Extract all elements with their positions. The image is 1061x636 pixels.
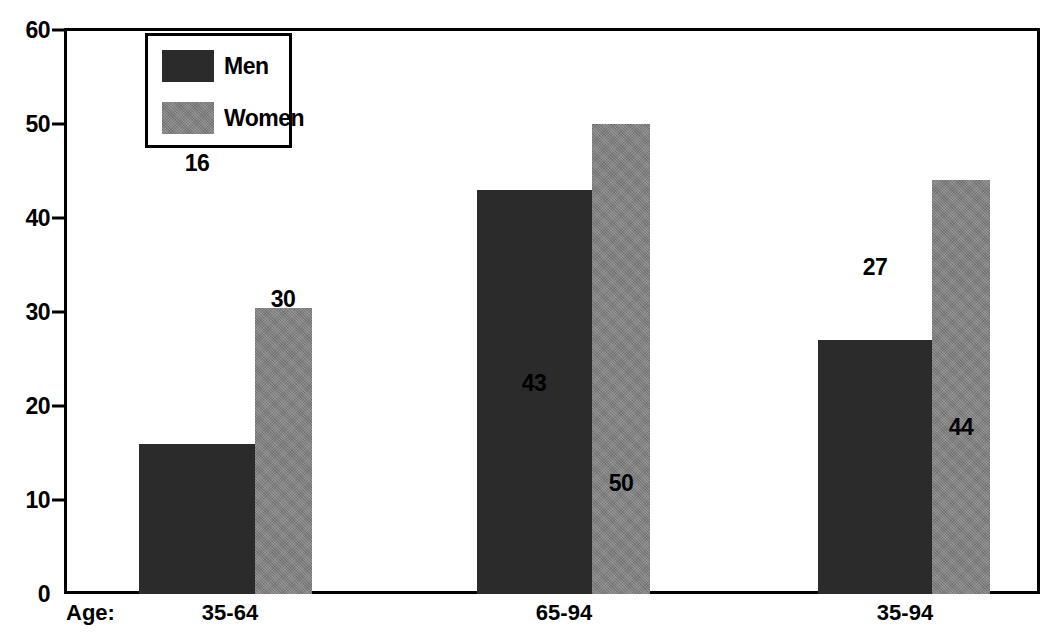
y-tick-label-30: 30 bbox=[25, 301, 50, 324]
value-label-men-35-64: 16 bbox=[185, 152, 210, 175]
x-tick-label-65-94: 65-94 bbox=[536, 602, 592, 624]
bar-men-35-94 bbox=[818, 340, 932, 594]
legend-label-women: Women bbox=[224, 107, 304, 130]
y-tick-label-60: 60 bbox=[25, 19, 50, 42]
bar-women-35-94 bbox=[932, 180, 990, 594]
legend-swatch-men-icon bbox=[162, 50, 214, 82]
bar-chart: 60 50 40 30 20 10 0 16 30 43 50 27 44 bbox=[0, 0, 1061, 636]
y-tick-label-10: 10 bbox=[25, 489, 50, 512]
legend-item-men: Men bbox=[162, 50, 269, 82]
bar-women-35-64 bbox=[255, 308, 312, 594]
x-axis-title: Age: bbox=[66, 602, 115, 624]
value-label-women-65-94: 50 bbox=[609, 472, 634, 495]
value-label-women-35-94: 44 bbox=[949, 416, 974, 439]
x-axis: Age: 35-64 65-94 35-94 bbox=[0, 594, 1061, 636]
value-label-men-65-94: 43 bbox=[522, 372, 547, 395]
y-tick-label-50: 50 bbox=[25, 113, 50, 136]
y-tick-label-40: 40 bbox=[25, 207, 50, 230]
bar-men-35-64 bbox=[139, 444, 255, 594]
y-tick-label-20: 20 bbox=[25, 395, 50, 418]
x-tick-label-35-64: 35-64 bbox=[202, 602, 258, 624]
legend: Men Women bbox=[145, 33, 292, 148]
y-axis: 60 50 40 30 20 10 0 bbox=[0, 0, 64, 636]
value-label-women-35-64: 30 bbox=[271, 288, 296, 311]
legend-item-women: Women bbox=[162, 102, 304, 134]
bar-women-65-94 bbox=[592, 124, 650, 594]
legend-label-men: Men bbox=[224, 55, 269, 78]
value-label-men-35-94: 27 bbox=[863, 256, 888, 279]
legend-swatch-women-icon bbox=[162, 102, 214, 134]
x-tick-label-35-94: 35-94 bbox=[877, 602, 933, 624]
